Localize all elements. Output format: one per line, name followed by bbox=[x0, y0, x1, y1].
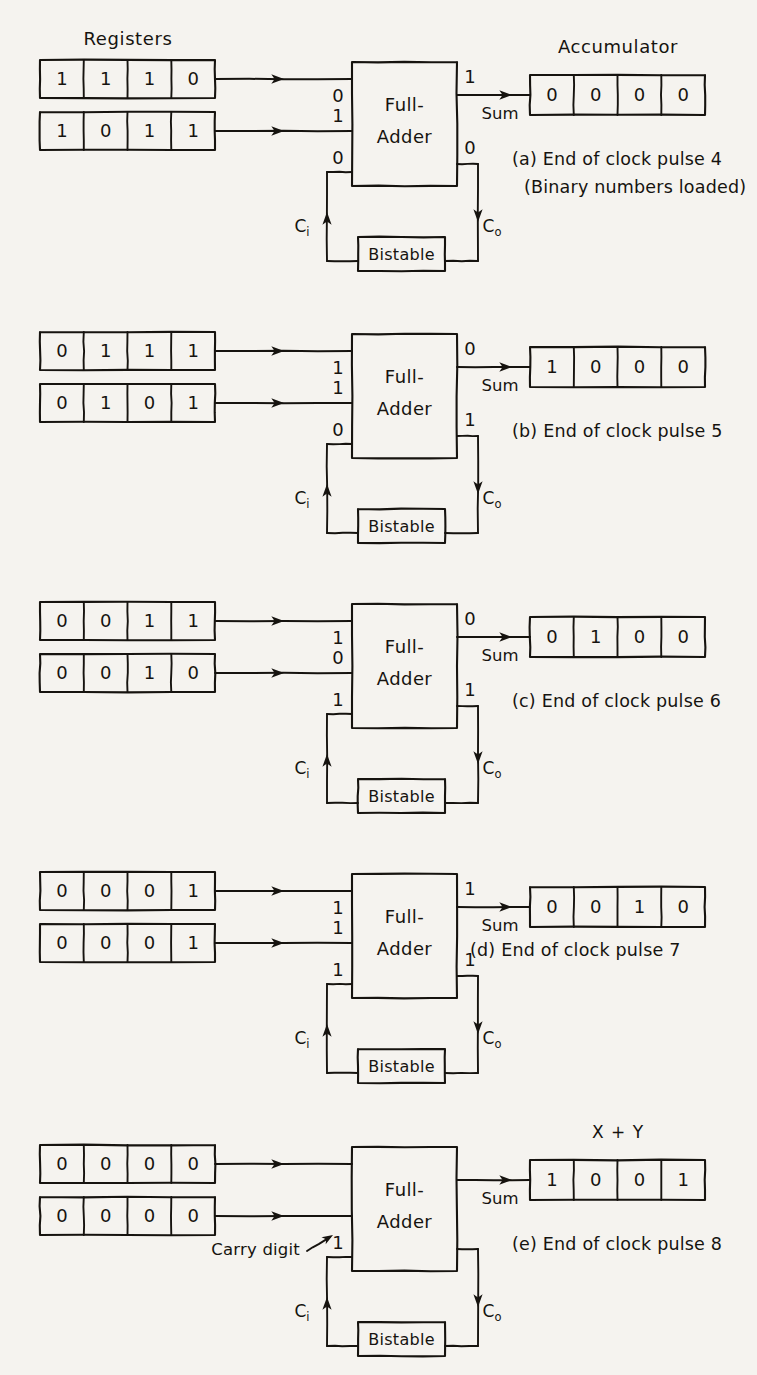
registers-heading: Registers bbox=[84, 28, 173, 49]
panel-caption-line2: (Binary numbers loaded) bbox=[524, 177, 746, 197]
sum-label: Sum bbox=[481, 916, 518, 935]
carry-out-label: Co bbox=[483, 488, 502, 511]
full-adder-label-line1: Full- bbox=[385, 906, 424, 927]
register-x: 0011 bbox=[40, 602, 215, 641]
register-y-bit: 0 bbox=[56, 1205, 67, 1226]
register-y-bit: 0 bbox=[144, 1205, 155, 1226]
register-x-bit: 1 bbox=[187, 340, 198, 361]
register-y-bit: 0 bbox=[100, 120, 111, 141]
panel-caption-line1: (a) End of clock pulse 4 bbox=[512, 149, 722, 169]
panel-e-canvas: X + Y000000001001Full-AdderBistableSumCi… bbox=[0, 1085, 757, 1360]
accumulator: 0000 bbox=[530, 75, 706, 115]
sum-label: Sum bbox=[481, 104, 518, 123]
register-y: 0001 bbox=[40, 924, 215, 962]
carry-out-symbol: Co bbox=[483, 1301, 502, 1324]
accumulator-heading: Accumulator bbox=[558, 36, 678, 57]
carry-in-wire-from-bistable bbox=[327, 533, 358, 534]
panel-caption-line1: (d) End of clock pulse 7 bbox=[470, 940, 681, 960]
sum-label: Sum bbox=[481, 376, 518, 395]
register-x-divider bbox=[127, 872, 128, 910]
register-y: 1011 bbox=[40, 112, 215, 150]
panel-c: 001100100100Full-AdderBistableSumCiCo101… bbox=[0, 542, 757, 817]
accumulator-bit: 1 bbox=[590, 626, 601, 647]
accumulator: 1001 bbox=[530, 1160, 705, 1200]
carry-out-label: Co bbox=[483, 216, 502, 239]
register-x-bit: 0 bbox=[144, 1153, 155, 1174]
full-adder-label-line2: Adder bbox=[377, 668, 433, 689]
register-y-bit: 0 bbox=[144, 392, 155, 413]
accumulator-bit: 1 bbox=[546, 1169, 557, 1190]
accumulator-bit: 1 bbox=[634, 896, 645, 917]
bistable-label: Bistable bbox=[368, 787, 435, 806]
accumulator-bit: 0 bbox=[590, 1169, 601, 1190]
register-y-divider bbox=[83, 1197, 84, 1235]
bistable-label: Bistable bbox=[368, 1330, 435, 1349]
register-x-divider bbox=[83, 332, 84, 370]
carry-out-wire-h bbox=[457, 164, 478, 165]
register-x-bit: 0 bbox=[100, 880, 111, 901]
register-y-divider bbox=[171, 654, 172, 692]
accumulator-bit: 1 bbox=[677, 1169, 688, 1190]
accumulator-bit: 0 bbox=[634, 84, 645, 105]
accumulator-bit: 1 bbox=[546, 356, 557, 377]
accumulator-bit: 0 bbox=[634, 1169, 645, 1190]
register-x-bit: 0 bbox=[187, 1153, 198, 1174]
accumulator: 0100 bbox=[530, 617, 706, 658]
panel-e: X + Y000000001001Full-AdderBistableSumCi… bbox=[0, 1085, 757, 1360]
register-x-divider bbox=[127, 332, 128, 370]
register-y-divider bbox=[171, 384, 172, 422]
sum-label: Sum bbox=[481, 646, 518, 665]
carry-out-bit-label: 0 bbox=[464, 137, 475, 158]
accumulator-bit: 0 bbox=[677, 356, 688, 377]
carry-in-label: Ci bbox=[294, 488, 309, 511]
sum-label: Sum bbox=[481, 1189, 518, 1208]
carry-in-label: Ci bbox=[294, 216, 309, 239]
register-y-bit: 0 bbox=[187, 1205, 198, 1226]
panel-caption-line1: (e) End of clock pulse 8 bbox=[512, 1234, 722, 1254]
full-adder-label-line1: Full- bbox=[385, 94, 424, 115]
register-x: 0111 bbox=[40, 332, 215, 370]
input-top-bit-label: 0 bbox=[332, 85, 343, 106]
carry-in-wire-from-bistable bbox=[327, 1346, 358, 1347]
carry-in-bit-label: 0 bbox=[332, 147, 343, 168]
carry-in-symbol: Ci bbox=[294, 488, 309, 511]
register-y: 0000 bbox=[40, 1197, 216, 1236]
carry-in-bit-label: 1 bbox=[332, 689, 343, 710]
accumulator-bit: 0 bbox=[634, 626, 645, 647]
panel-a-canvas: RegistersAccumulator111010110000Full-Add… bbox=[0, 0, 757, 275]
full-adder-label-line1: Full- bbox=[385, 366, 424, 387]
register-y-bit: 0 bbox=[56, 932, 67, 953]
accumulator-bit: 0 bbox=[677, 84, 688, 105]
register-y-bit: 0 bbox=[187, 662, 198, 683]
panel-caption-line1: (c) End of clock pulse 6 bbox=[512, 691, 721, 711]
register-y-bit: 1 bbox=[187, 932, 198, 953]
register-x-bit: 0 bbox=[100, 610, 111, 631]
full-adder-label-line2: Adder bbox=[377, 938, 433, 959]
register-x-divider bbox=[84, 872, 85, 910]
panel-c-canvas: 001100100100Full-AdderBistableSumCiCo101… bbox=[0, 542, 757, 817]
bistable-label: Bistable bbox=[368, 245, 435, 264]
register-y: 0101 bbox=[40, 384, 215, 422]
accumulator-divider bbox=[574, 887, 575, 927]
register-y-bit: 1 bbox=[187, 120, 198, 141]
register-x-divider bbox=[127, 602, 128, 640]
carry-digit-annotation: Carry digit bbox=[211, 1240, 300, 1259]
register-x-bit: 1 bbox=[187, 610, 198, 631]
register-y-bit: 1 bbox=[144, 662, 155, 683]
panel-caption-line1: (b) End of clock pulse 5 bbox=[512, 421, 723, 441]
register-x-bit: 1 bbox=[56, 68, 67, 89]
accumulator-bit: 0 bbox=[546, 84, 557, 105]
carry-out-symbol: Co bbox=[483, 1028, 502, 1051]
register-x-bit: 1 bbox=[144, 68, 155, 89]
bistable-label: Bistable bbox=[368, 517, 435, 536]
register-x: 0001 bbox=[40, 872, 215, 911]
result-heading: X + Y bbox=[592, 1122, 644, 1142]
register-y: 0010 bbox=[40, 654, 216, 693]
register-y-bit: 1 bbox=[187, 392, 198, 413]
register-x-bit: 1 bbox=[144, 610, 155, 631]
register-y-divider bbox=[127, 924, 128, 962]
accumulator-bit: 0 bbox=[677, 626, 688, 647]
input-bottom-bit-label: 1 bbox=[332, 105, 343, 126]
carry-in-bit-label: 0 bbox=[332, 419, 343, 440]
sum-bit-label: 0 bbox=[464, 608, 475, 629]
